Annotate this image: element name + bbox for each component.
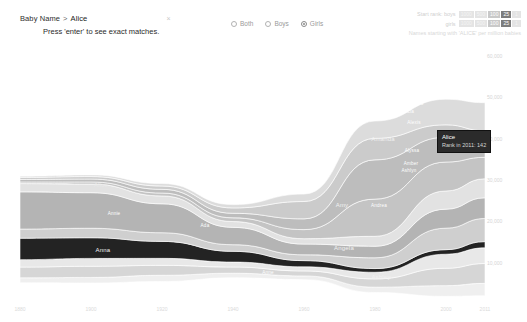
radio-dot-both — [231, 21, 237, 27]
streamgraph-canvas[interactable] — [20, 38, 485, 306]
radio-boys[interactable]: Boys — [265, 20, 288, 27]
y-tick-10000: 10,000 — [487, 260, 502, 266]
x-tick-2011: 2011 — [480, 306, 491, 312]
search-input[interactable]: Alice — [71, 14, 88, 23]
radio-dot-boys — [265, 21, 271, 27]
x-tick-1960: 1960 — [298, 306, 309, 312]
streamgraph[interactable] — [20, 38, 485, 306]
rank-seg-girls-1[interactable]: 1 — [512, 20, 521, 27]
tooltip-rank: Rank in 2011: 142 — [442, 141, 486, 149]
tooltip-name: Alice — [442, 133, 486, 141]
x-axis: 18801900192019401960198020002011 — [20, 306, 500, 318]
x-tick-1900: 1900 — [85, 306, 96, 312]
rank-seg-boys-1[interactable]: 1 — [512, 11, 521, 18]
rank-seg-boys-25[interactable]: 25 — [501, 11, 511, 18]
radio-label-boys: Boys — [274, 20, 288, 27]
radio-label-both: Both — [240, 20, 253, 27]
rank-seg-girls-500[interactable]: 500 — [475, 20, 487, 27]
x-tick-2000: 2000 — [440, 306, 451, 312]
rank-seg-boys-1000[interactable]: 1000 — [459, 11, 474, 18]
radio-label-girls: Girls — [310, 20, 323, 27]
y-tick-20000: 20,000 — [487, 218, 502, 224]
rank-segments-girls: 1000 500 100 25 1 — [459, 20, 521, 27]
close-icon[interactable]: × — [165, 15, 172, 22]
search-block: Baby Name > Alice × Press 'enter' to see… — [20, 14, 190, 36]
rank-seg-girls-100[interactable]: 100 — [488, 20, 500, 27]
x-tick-1980: 1980 — [369, 306, 380, 312]
gender-filter-group: Both Boys Girls — [231, 20, 323, 27]
tooltip: Alice Rank in 2011: 142 — [437, 130, 491, 153]
chart-caption: Names starting with 'ALICE' per million … — [385, 30, 521, 36]
y-tick-30000: 30,000 — [487, 177, 502, 183]
radio-dot-girls — [301, 21, 307, 27]
x-tick-1920: 1920 — [156, 306, 167, 312]
rank-row-girls: girls 1000 500 100 25 1 — [385, 20, 521, 28]
namevoyager-app: Baby Name > Alice × Press 'enter' to see… — [0, 0, 527, 322]
rank-seg-boys-500[interactable]: 500 — [475, 11, 487, 18]
x-tick-1880: 1880 — [14, 306, 25, 312]
rank-row-girls-caption: girls — [446, 21, 456, 27]
rank-seg-boys-100[interactable]: 100 — [488, 11, 500, 18]
rank-range-panel: Start rank: boys 1000 500 100 25 1 girls… — [385, 10, 521, 36]
rank-row-boys-caption: Start rank: boys — [417, 11, 456, 17]
y-tick-60000: 60,000 — [487, 53, 502, 59]
radio-girls[interactable]: Girls — [301, 20, 323, 27]
breadcrumb-separator: > — [63, 14, 67, 23]
rank-row-boys: Start rank: boys 1000 500 100 25 1 — [385, 10, 521, 18]
rank-seg-girls-1000[interactable]: 1000 — [459, 20, 474, 27]
x-tick-1940: 1940 — [227, 306, 238, 312]
y-tick-50000: 50,000 — [487, 94, 502, 100]
search-hint: Press 'enter' to see exact matches. — [43, 27, 190, 36]
y-axis: 10,00020,00030,00040,00050,00060,000 — [487, 38, 527, 306]
radio-both[interactable]: Both — [231, 20, 253, 27]
rank-segments-boys: 1000 500 100 25 1 — [459, 11, 521, 18]
breadcrumb-label: Baby Name — [20, 14, 60, 23]
rank-seg-girls-25[interactable]: 25 — [501, 20, 511, 27]
